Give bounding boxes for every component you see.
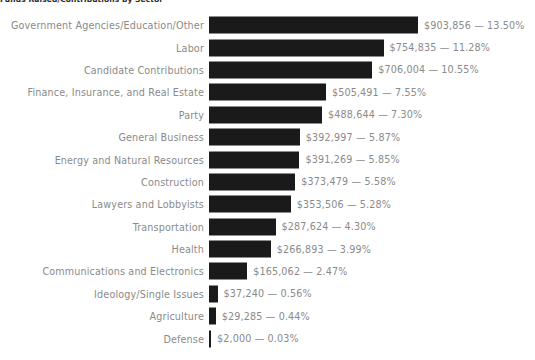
bar — [209, 173, 295, 190]
bar-category-label: Communications and Electronics — [42, 266, 204, 277]
bar — [209, 106, 322, 123]
bar-rows-container: Government Agencies/Education/Other$903,… — [0, 14, 535, 350]
bar — [209, 151, 299, 168]
bar — [209, 84, 326, 101]
bar-chart: Funds Raised/Contributions by Sector Gov… — [0, 0, 535, 360]
bar-category-label: Ideology/Single Issues — [94, 288, 204, 299]
bar-value-label: $706,004 — 10.55% — [378, 64, 479, 75]
bar-track: $391,269 — 5.85% — [209, 151, 535, 168]
bar-row: General Business$392,997 — 5.87% — [0, 126, 535, 148]
bar-track: $287,624 — 4.30% — [209, 218, 535, 235]
bar-value-label: $287,624 — 4.30% — [282, 221, 376, 232]
bar-track: $754,835 — 11.28% — [209, 39, 535, 56]
bar-value-label: $29,285 — 0.44% — [222, 311, 310, 322]
bar-value-label: $266,893 — 3.99% — [277, 244, 371, 255]
bar-category-label: Construction — [141, 176, 204, 187]
bar-track: $903,856 — 13.50% — [209, 17, 535, 34]
chart-title: Funds Raised/Contributions by Sector — [0, 0, 300, 5]
bar-value-label: $2,000 — 0.03% — [217, 333, 299, 344]
bar-row: Party$488,644 — 7.30% — [0, 104, 535, 126]
bar-category-label: Finance, Insurance, and Real Estate — [28, 87, 204, 98]
bar-row: Health$266,893 — 3.99% — [0, 238, 535, 260]
bar-category-label: Candidate Contributions — [84, 64, 204, 75]
bar-track: $37,240 — 0.56% — [209, 285, 535, 302]
bar-row: Candidate Contributions$706,004 — 10.55% — [0, 59, 535, 81]
bar — [209, 129, 300, 146]
bar — [209, 241, 271, 258]
bar-track: $706,004 — 10.55% — [209, 61, 535, 78]
bar-track: $2,000 — 0.03% — [209, 330, 535, 347]
bar-track: $373,479 — 5.58% — [209, 173, 535, 190]
bar-row: Defense$2,000 — 0.03% — [0, 327, 535, 349]
bar-track: $29,285 — 0.44% — [209, 308, 535, 325]
bar — [209, 285, 218, 302]
bar-track: $488,644 — 7.30% — [209, 106, 535, 123]
bar-track: $353,506 — 5.28% — [209, 196, 535, 213]
bar-row: Construction$373,479 — 5.58% — [0, 171, 535, 193]
bar-category-label: Lawyers and Lobbyists — [92, 199, 204, 210]
bar-category-label: Labor — [176, 42, 204, 53]
bar — [209, 196, 291, 213]
bar-row: Government Agencies/Education/Other$903,… — [0, 14, 535, 36]
bar-row: Communications and Electronics$165,062 —… — [0, 260, 535, 282]
bar-category-label: Defense — [163, 333, 204, 344]
bar-row: Energy and Natural Resources$391,269 — 5… — [0, 148, 535, 170]
bar — [209, 39, 384, 56]
bar — [209, 61, 372, 78]
bar-track: $165,062 — 2.47% — [209, 263, 535, 280]
bar-value-label: $373,479 — 5.58% — [301, 176, 395, 187]
bar-category-label: Transportation — [133, 221, 204, 232]
bar — [209, 330, 211, 347]
bar — [209, 263, 247, 280]
bar-value-label: $391,269 — 5.85% — [305, 154, 399, 165]
bar-value-label: $37,240 — 0.56% — [224, 288, 312, 299]
bar-value-label: $353,506 — 5.28% — [297, 199, 391, 210]
bar-track: $392,997 — 5.87% — [209, 129, 535, 146]
bar-row: Agriculture$29,285 — 0.44% — [0, 305, 535, 327]
bar-track: $505,491 — 7.55% — [209, 84, 535, 101]
bar-value-label: $903,856 — 13.50% — [424, 20, 525, 31]
bar — [209, 17, 418, 34]
bar-row: Finance, Insurance, and Real Estate$505,… — [0, 81, 535, 103]
bar-category-label: General Business — [118, 132, 204, 143]
bar — [209, 218, 276, 235]
bar-value-label: $488,644 — 7.30% — [328, 109, 422, 120]
bar-value-label: $505,491 — 7.55% — [332, 87, 426, 98]
bar-value-label: $392,997 — 5.87% — [306, 132, 400, 143]
bar-category-label: Government Agencies/Education/Other — [11, 20, 204, 31]
bar-category-label: Energy and Natural Resources — [55, 154, 204, 165]
bar-category-label: Health — [172, 244, 204, 255]
bar-category-label: Agriculture — [150, 311, 204, 322]
bar-value-label: $165,062 — 2.47% — [253, 266, 347, 277]
bar-category-label: Party — [179, 109, 204, 120]
bar-row: Ideology/Single Issues$37,240 — 0.56% — [0, 283, 535, 305]
bar-row: Transportation$287,624 — 4.30% — [0, 216, 535, 238]
bar-row: Lawyers and Lobbyists$353,506 — 5.28% — [0, 193, 535, 215]
bar-track: $266,893 — 3.99% — [209, 241, 535, 258]
bar — [209, 308, 216, 325]
bar-value-label: $754,835 — 11.28% — [390, 42, 491, 53]
bar-row: Labor$754,835 — 11.28% — [0, 36, 535, 58]
